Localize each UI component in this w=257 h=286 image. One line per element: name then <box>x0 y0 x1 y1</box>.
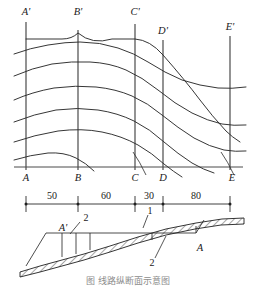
dimension-chain: 50 60 30 80 <box>25 190 232 212</box>
callout-leader-1 <box>143 215 148 228</box>
dimension-value-ab: 50 <box>47 190 57 201</box>
dim-node-b <box>77 203 80 206</box>
dimension-value-de: 80 <box>191 190 201 201</box>
dimension-value-cd: 30 <box>144 190 154 201</box>
contour-curve-3 <box>14 62 246 126</box>
station-label-a: A <box>22 172 30 183</box>
callout-label-1: 1 <box>148 205 153 216</box>
callout-leader-2-right <box>155 236 166 258</box>
station-label-c-prime: C' <box>130 6 140 17</box>
contour-curve-5 <box>14 109 214 174</box>
station-label-d: D <box>158 172 167 183</box>
contour-curve-6 <box>14 130 182 177</box>
figure-caption: 图 线路纵断面示意图 <box>86 275 169 286</box>
station-label-b: B <box>75 172 82 183</box>
callout-label-a: A <box>196 242 204 253</box>
engineering-figure: A' B' C' D' E' A B C D E 50 60 <box>0 0 257 286</box>
callout-label-a-prime: A' <box>58 222 68 233</box>
callout-label-2-left: 2 <box>84 212 89 223</box>
station-label-e: E <box>228 172 236 183</box>
embankment-cross-section: A' 2 1 2 A <box>20 205 244 277</box>
dim-node-d <box>162 203 165 206</box>
callout-leader-2-left <box>70 222 80 234</box>
contour-curve-2 <box>14 42 246 88</box>
contour-profile-panel: A' B' C' D' E' A B C D E <box>14 6 246 183</box>
dim-node-a <box>25 203 28 206</box>
station-label-e-prime: E' <box>225 21 235 32</box>
figure-canvas: A' B' C' D' E' A B C D E 50 60 <box>0 0 257 286</box>
station-label-d-prime: D' <box>157 25 169 36</box>
fill-left-slope <box>26 233 46 266</box>
dim-node-c <box>134 203 137 206</box>
station-label-a-prime: A' <box>21 6 31 17</box>
callout-label-2-right: 2 <box>150 257 155 268</box>
dimension-value-bc: 60 <box>101 190 111 201</box>
dim-node-e <box>229 203 232 206</box>
station-label-c: C <box>131 172 139 183</box>
station-label-b-prime: B' <box>74 6 83 17</box>
